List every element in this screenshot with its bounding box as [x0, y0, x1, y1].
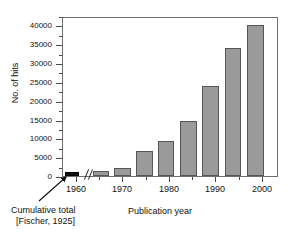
x-tick-label-2000: 2000 — [252, 184, 272, 194]
cumulative-total-arrow-icon — [36, 172, 78, 204]
bar-1980 — [158, 141, 175, 176]
y-tick-label-40000: 40000 — [30, 22, 52, 30]
x-axis-title: Publication year — [128, 206, 192, 216]
bar-2000 — [247, 25, 264, 176]
y-tick-label-30000: 30000 — [30, 60, 52, 68]
y-tick-label-25000: 25000 — [30, 79, 52, 87]
x-tick-1980 — [169, 177, 170, 182]
bar-1970 — [114, 168, 131, 176]
y-tick-label-15000: 15000 — [30, 117, 52, 125]
bar-1975 — [136, 151, 153, 176]
y-tick-label-10000: 10000 — [30, 135, 52, 143]
bar-1990 — [202, 86, 219, 176]
x-tick-label-1990: 1990 — [205, 184, 225, 194]
caption-line-reference: [Fischer, 1925] — [7, 216, 127, 227]
x-minor-tick-1965 — [99, 177, 100, 180]
cumulative-total-caption: Cumulative total [Fischer, 1925] — [7, 205, 127, 227]
x-tick-1990 — [215, 177, 216, 182]
x-tick-label-1970: 1970 — [112, 184, 132, 194]
x-tick-1970 — [122, 177, 123, 182]
y-tick-label-5000: 5000 — [34, 154, 52, 162]
y-tick-label-20000: 20000 — [30, 98, 52, 106]
y-tick-label-35000: 35000 — [30, 41, 52, 49]
x-tick-2000 — [262, 177, 263, 182]
x-tick-label-1980: 1980 — [159, 184, 179, 194]
axis-break-marker — [83, 169, 97, 183]
y-axis-title: No. of hits — [10, 48, 20, 118]
caption-line-cumulative-total: Cumulative total — [7, 205, 127, 216]
axis-break-slash-2 — [88, 169, 93, 180]
bar-chart-figure: 0500010000150002000025000300003500040000… — [0, 0, 296, 239]
bar-1995 — [225, 48, 242, 176]
x-minor-tick-1975 — [146, 177, 147, 180]
x-minor-tick-1985 — [192, 177, 193, 180]
plot-area — [62, 17, 278, 177]
bar-1985 — [180, 121, 197, 176]
bars-layer — [63, 18, 277, 176]
x-minor-tick-1995 — [239, 177, 240, 180]
